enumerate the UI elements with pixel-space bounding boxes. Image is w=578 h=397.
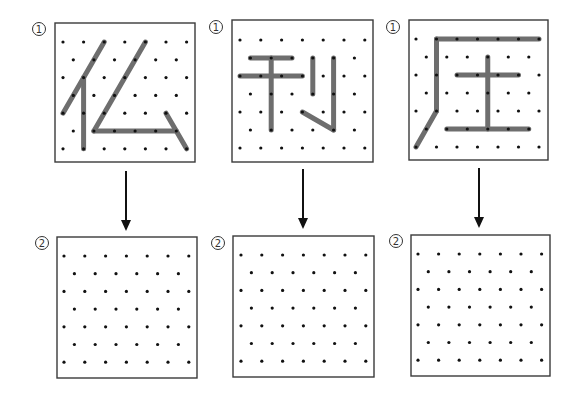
peg-dot[interactable] bbox=[302, 324, 305, 327]
practice-grid-2[interactable]: 2 bbox=[212, 236, 375, 377]
peg-dot[interactable] bbox=[156, 272, 159, 275]
peg-dot[interactable] bbox=[302, 289, 305, 292]
peg-dot[interactable] bbox=[312, 342, 315, 345]
peg-dot[interactable] bbox=[499, 288, 502, 291]
peg-dot[interactable] bbox=[416, 359, 419, 362]
peg-dot[interactable] bbox=[489, 341, 492, 344]
peg-dot[interactable] bbox=[343, 289, 346, 292]
peg-dot[interactable] bbox=[519, 359, 522, 362]
peg-dot[interactable] bbox=[478, 288, 481, 291]
peg-dot[interactable] bbox=[239, 289, 242, 292]
peg-dot[interactable] bbox=[125, 290, 128, 293]
peg-dot[interactable] bbox=[250, 307, 253, 310]
peg-dot[interactable] bbox=[94, 272, 97, 275]
peg-dot[interactable] bbox=[509, 306, 512, 309]
peg-dot[interactable] bbox=[62, 361, 65, 364]
peg-dot[interactable] bbox=[323, 360, 326, 363]
peg-dot[interactable] bbox=[354, 342, 357, 345]
peg-dot[interactable] bbox=[364, 253, 367, 256]
peg-dot[interactable] bbox=[416, 252, 419, 255]
peg-dot[interactable] bbox=[135, 308, 138, 311]
peg-dot[interactable] bbox=[540, 288, 543, 291]
peg-dot[interactable] bbox=[416, 323, 419, 326]
peg-dot[interactable] bbox=[540, 323, 543, 326]
peg-dot[interactable] bbox=[62, 325, 65, 328]
peg-dot[interactable] bbox=[530, 270, 533, 273]
practice-grid-3[interactable]: 2 bbox=[390, 235, 551, 377]
peg-dot[interactable] bbox=[83, 290, 86, 293]
peg-dot[interactable] bbox=[260, 253, 263, 256]
peg-dot[interactable] bbox=[519, 323, 522, 326]
peg-dot[interactable] bbox=[447, 306, 450, 309]
peg-dot[interactable] bbox=[125, 325, 128, 328]
peg-dot[interactable] bbox=[323, 253, 326, 256]
peg-dot[interactable] bbox=[135, 272, 138, 275]
peg-dot[interactable] bbox=[187, 254, 190, 257]
peg-dot[interactable] bbox=[239, 324, 242, 327]
peg-dot[interactable] bbox=[146, 361, 149, 364]
peg-dot[interactable] bbox=[281, 360, 284, 363]
peg-dot[interactable] bbox=[323, 289, 326, 292]
peg-dot[interactable] bbox=[73, 343, 76, 346]
peg-dot[interactable] bbox=[333, 342, 336, 345]
peg-dot[interactable] bbox=[166, 254, 169, 257]
peg-dot[interactable] bbox=[156, 343, 159, 346]
peg-dot[interactable] bbox=[437, 359, 440, 362]
peg-dot[interactable] bbox=[530, 341, 533, 344]
peg-dot[interactable] bbox=[354, 307, 357, 310]
peg-dot[interactable] bbox=[146, 325, 149, 328]
peg-dot[interactable] bbox=[458, 359, 461, 362]
peg-dot[interactable] bbox=[62, 254, 65, 257]
peg-dot[interactable] bbox=[437, 252, 440, 255]
peg-dot[interactable] bbox=[239, 360, 242, 363]
peg-dot[interactable] bbox=[427, 270, 430, 273]
peg-dot[interactable] bbox=[312, 307, 315, 310]
peg-dot[interactable] bbox=[260, 360, 263, 363]
peg-dot[interactable] bbox=[187, 361, 190, 364]
peg-dot[interactable] bbox=[468, 270, 471, 273]
peg-dot[interactable] bbox=[83, 361, 86, 364]
peg-dot[interactable] bbox=[94, 343, 97, 346]
peg-dot[interactable] bbox=[499, 359, 502, 362]
peg-dot[interactable] bbox=[104, 290, 107, 293]
practice-grid-1[interactable]: 2 bbox=[36, 237, 198, 379]
peg-dot[interactable] bbox=[489, 270, 492, 273]
peg-dot[interactable] bbox=[281, 253, 284, 256]
peg-dot[interactable] bbox=[260, 289, 263, 292]
peg-dot[interactable] bbox=[250, 342, 253, 345]
peg-dot[interactable] bbox=[302, 360, 305, 363]
peg-dot[interactable] bbox=[343, 324, 346, 327]
peg-dot[interactable] bbox=[271, 307, 274, 310]
peg-dot[interactable] bbox=[281, 289, 284, 292]
peg-dot[interactable] bbox=[427, 341, 430, 344]
peg-dot[interactable] bbox=[478, 359, 481, 362]
peg-dot[interactable] bbox=[250, 271, 253, 274]
peg-dot[interactable] bbox=[343, 253, 346, 256]
peg-dot[interactable] bbox=[333, 271, 336, 274]
peg-dot[interactable] bbox=[125, 254, 128, 257]
peg-dot[interactable] bbox=[291, 271, 294, 274]
peg-dot[interactable] bbox=[519, 288, 522, 291]
peg-dot[interactable] bbox=[354, 271, 357, 274]
peg-dot[interactable] bbox=[499, 252, 502, 255]
peg-dot[interactable] bbox=[156, 308, 159, 311]
peg-dot[interactable] bbox=[135, 343, 138, 346]
peg-dot[interactable] bbox=[478, 252, 481, 255]
peg-dot[interactable] bbox=[104, 254, 107, 257]
peg-dot[interactable] bbox=[323, 324, 326, 327]
peg-dot[interactable] bbox=[509, 341, 512, 344]
peg-dot[interactable] bbox=[437, 288, 440, 291]
peg-dot[interactable] bbox=[104, 325, 107, 328]
peg-dot[interactable] bbox=[364, 289, 367, 292]
peg-dot[interactable] bbox=[73, 272, 76, 275]
peg-dot[interactable] bbox=[540, 252, 543, 255]
peg-dot[interactable] bbox=[114, 308, 117, 311]
peg-dot[interactable] bbox=[458, 252, 461, 255]
peg-dot[interactable] bbox=[416, 288, 419, 291]
peg-dot[interactable] bbox=[468, 341, 471, 344]
peg-dot[interactable] bbox=[437, 323, 440, 326]
peg-dot[interactable] bbox=[499, 323, 502, 326]
peg-dot[interactable] bbox=[177, 308, 180, 311]
peg-dot[interactable] bbox=[177, 272, 180, 275]
peg-dot[interactable] bbox=[114, 343, 117, 346]
